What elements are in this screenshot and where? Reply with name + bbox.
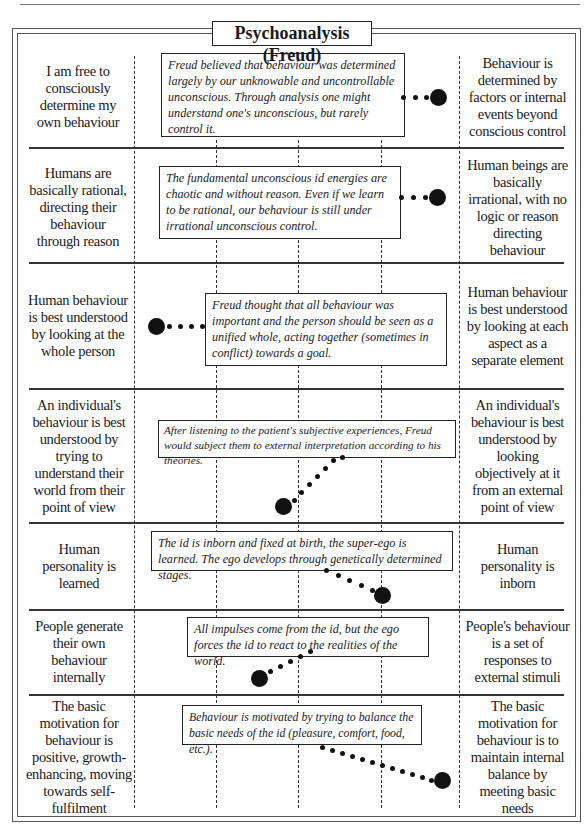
row-divider (29, 694, 564, 696)
row-3-right-label: Human behaviour is best understood by lo… (465, 270, 570, 382)
row-7-right-label: The basic motivation for behaviour is to… (465, 700, 570, 814)
row-5-description: The id is inborn and fixed at birth, the… (151, 531, 453, 571)
row-5-right-label: Human personality is inborn (465, 528, 570, 604)
page-header-rule (20, 4, 580, 5)
row-divider (29, 388, 564, 390)
row-1-left-label: I am free to consciously determine my ow… (28, 52, 128, 142)
row-1-right-label: Behaviour is determined by factors or in… (465, 52, 570, 142)
row-2-description: The fundamental unconscious id energies … (159, 166, 401, 239)
row-2-right-label: Human beings are basically irrational, w… (465, 160, 570, 255)
row-divider (29, 147, 564, 149)
scale-line-5 (459, 56, 460, 808)
row-divider (29, 522, 564, 524)
row-divider (29, 609, 564, 611)
diagram-title: Psychoanalysis (Freud) (212, 21, 372, 46)
row-7-description: Behaviour is motivated by trying to bala… (182, 705, 422, 745)
row-4-description: After listening to the patient's subject… (158, 420, 456, 458)
row-6-right-label: People's behaviour is a set of responses… (465, 614, 570, 690)
row-divider (29, 262, 564, 264)
scale-line-1 (134, 56, 135, 808)
row-2-left-label: Humans are basically rational, directing… (28, 160, 128, 255)
row-7-left-label: The basic motivation for behaviour is po… (25, 700, 133, 814)
row-5-left-label: Human personality is learned (28, 528, 130, 604)
row-3-description: Freud thought that all behaviour was imp… (205, 293, 447, 366)
row-4-left-label: An individual's behaviour is best unders… (28, 395, 130, 517)
row-3-left-label: Human behaviour is best understood by lo… (25, 272, 131, 380)
row-6-left-label: People generate their own behaviour inte… (28, 614, 130, 690)
row-4-right-label: An individual's behaviour is best unders… (465, 395, 570, 517)
